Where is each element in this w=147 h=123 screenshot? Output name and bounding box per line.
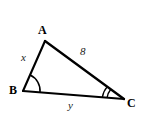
side-label-ac: 8 bbox=[80, 46, 86, 57]
angle-arc-c-outer bbox=[102, 87, 107, 98]
angle-arc-b bbox=[30, 75, 40, 92]
vertex-label-c: C bbox=[127, 97, 136, 109]
vertex-label-b: B bbox=[9, 84, 17, 96]
triangle-diagram: A B C x 8 y bbox=[0, 0, 147, 123]
side-label-ab: x bbox=[21, 52, 26, 63]
side-label-bc: y bbox=[68, 100, 73, 111]
side-ab-line bbox=[23, 41, 45, 91]
angle-arc-c-inner bbox=[107, 89, 111, 97]
vertex-label-a: A bbox=[38, 24, 47, 36]
